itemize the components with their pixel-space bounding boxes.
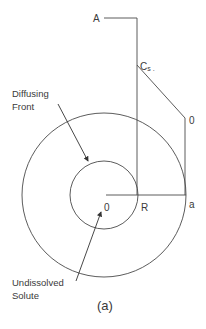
label-Cs-main: C xyxy=(140,61,147,72)
label-Cs: Cs. xyxy=(140,61,155,72)
label-a: a xyxy=(189,199,195,210)
concentration-profile-Cs xyxy=(137,65,185,195)
concentration-profile-A xyxy=(104,18,137,195)
undissolved-solute-arrow xyxy=(76,212,101,281)
label-A: A xyxy=(93,13,100,24)
label-origin: 0 xyxy=(104,202,110,213)
label-diffusing: Diffusing xyxy=(12,88,49,99)
label-R: R xyxy=(141,202,148,213)
label-zero-top: 0 xyxy=(189,115,195,126)
label-Cs-sub: s xyxy=(147,65,151,72)
diffusion-diagram: A Cs. 0 0 R a Diffusing Front Undissolve… xyxy=(0,0,206,329)
label-Cs-dot: . xyxy=(153,65,155,72)
label-front: Front xyxy=(12,101,35,112)
label-undissolved: Undissolved xyxy=(12,277,64,288)
label-solute: Solute xyxy=(12,290,39,301)
figure-caption: (a) xyxy=(97,298,113,313)
diffusing-front-arrow xyxy=(58,104,88,161)
